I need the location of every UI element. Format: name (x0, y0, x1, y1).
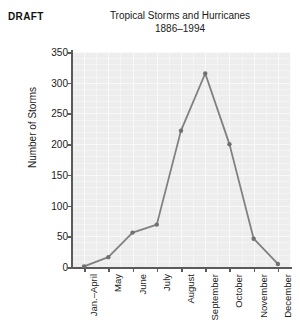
data-point-marker (130, 230, 134, 234)
x-axis-tick-label: May (112, 274, 123, 292)
data-point-marker (203, 71, 207, 75)
y-axis-tick-mark (67, 175, 71, 177)
x-axis-tick-mark (278, 268, 280, 272)
x-axis-tick-mark (157, 268, 159, 272)
x-axis-tick-label: September (209, 274, 220, 320)
x-axis-tick-mark (254, 268, 256, 272)
data-point-marker (106, 255, 110, 259)
x-axis-tick-label: December (282, 274, 293, 318)
data-point-marker (155, 222, 159, 226)
data-point-marker (251, 237, 255, 241)
data-series-line (0, 0, 300, 328)
y-axis-tick-mark (67, 113, 71, 115)
x-axis-tick-mark (181, 268, 183, 272)
x-axis-tick-label: October (233, 274, 244, 308)
y-axis-tick-mark (67, 52, 71, 54)
x-axis-tick-label: June (137, 274, 148, 295)
x-axis-tick-label: November (258, 274, 269, 318)
x-axis-tick-mark (84, 268, 86, 272)
x-axis-tick-mark (133, 268, 135, 272)
x-axis-tick-label: August (185, 274, 196, 304)
y-axis-tick-mark (67, 267, 71, 269)
y-axis-tick-mark (67, 206, 71, 208)
data-point-marker (179, 128, 183, 132)
y-axis-tick-mark (67, 236, 71, 238)
y-axis-tick-mark (67, 144, 71, 146)
x-axis-tick-mark (229, 268, 231, 272)
x-axis-tick-mark (108, 268, 110, 272)
x-axis-tick-mark (205, 268, 207, 272)
data-point-marker (227, 142, 231, 146)
x-axis-tick-label: July (161, 274, 172, 291)
data-point-marker (276, 262, 280, 266)
x-axis-tick-label: Jan.–April (88, 274, 99, 316)
y-axis-tick-mark (67, 83, 71, 85)
